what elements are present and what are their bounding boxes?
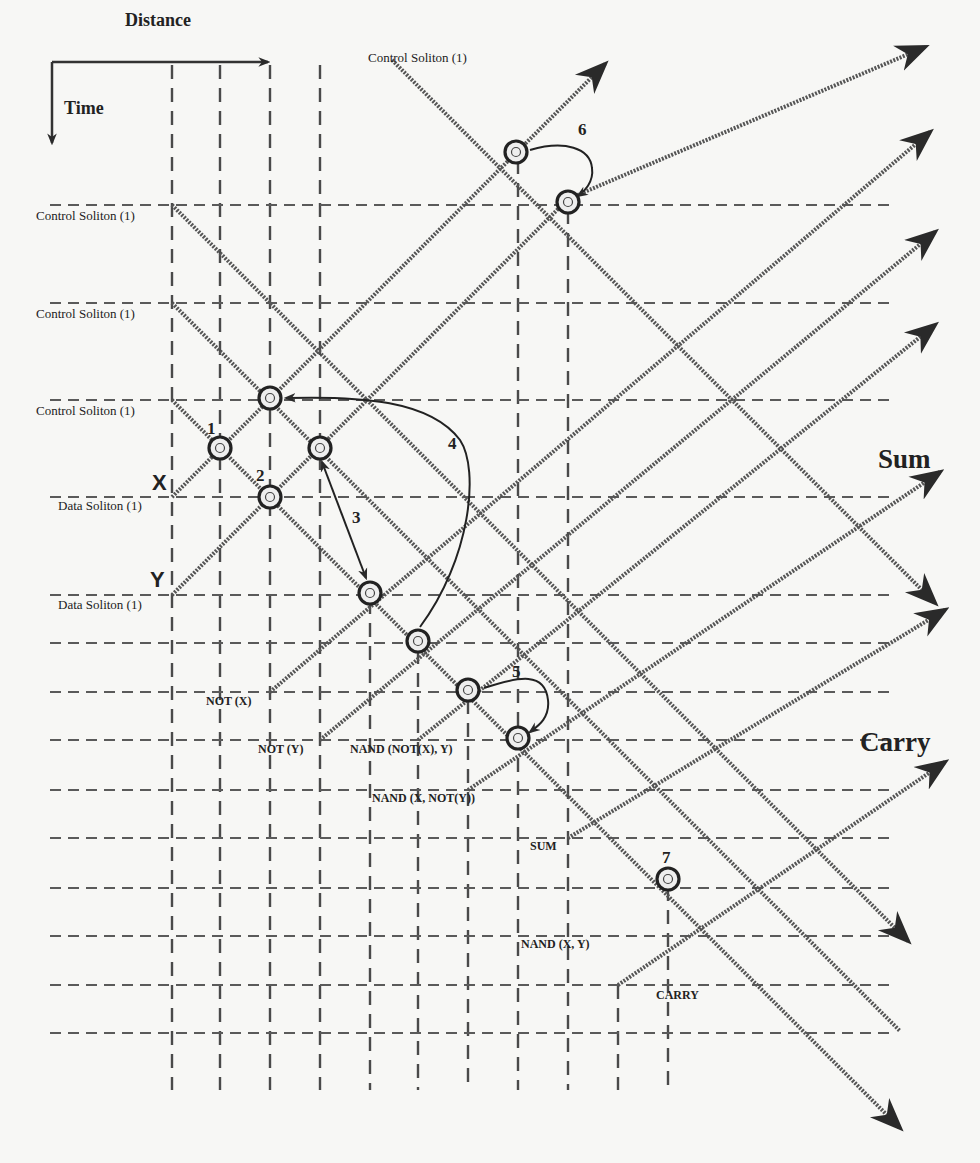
collision-number-4: 4 bbox=[448, 434, 457, 454]
horizontal-grid-lines bbox=[50, 205, 890, 1033]
collision-circle-icon bbox=[209, 437, 231, 459]
soliton-path bbox=[568, 47, 925, 199]
gate-label-nand-x-noty: NAND (X, NOT(Y)) bbox=[372, 791, 475, 806]
collision-circle-icon bbox=[359, 582, 381, 604]
collision-circle-icon bbox=[657, 868, 679, 890]
collision-circle-icon bbox=[557, 191, 579, 213]
collision-number-2: 2 bbox=[256, 466, 265, 486]
input-y-label: Y bbox=[150, 567, 165, 593]
collision-number-3: 3 bbox=[352, 508, 361, 528]
flow-arrow-6 bbox=[530, 146, 592, 196]
collision-points bbox=[209, 141, 679, 890]
soliton-path bbox=[172, 400, 900, 1128]
gate-label-not-y: NOT (Y) bbox=[258, 742, 303, 757]
control-soliton-label-2: Control Soliton (1) bbox=[36, 306, 135, 322]
collision-circle-icon bbox=[507, 727, 529, 749]
soliton-path bbox=[270, 132, 930, 692]
soliton-path bbox=[172, 199, 568, 595]
data-soliton-label-y: Data Soliton (1) bbox=[58, 597, 142, 613]
soliton-path bbox=[320, 232, 935, 740]
distance-label: Distance bbox=[125, 10, 191, 31]
soliton-path bbox=[568, 610, 945, 838]
flow-arrows bbox=[286, 146, 592, 732]
gate-label-nand-notx-y: NAND (NOT(X), Y) bbox=[350, 742, 453, 757]
input-x-label: X bbox=[152, 470, 167, 496]
soliton-adder-diagram bbox=[0, 0, 980, 1163]
output-sum-label: Sum bbox=[878, 444, 931, 475]
soliton-path bbox=[418, 325, 935, 740]
collision-number-5: 5 bbox=[512, 662, 521, 682]
collision-circle-icon bbox=[309, 437, 331, 459]
control-soliton-label-top: Control Soliton (1) bbox=[368, 50, 467, 66]
control-soliton-label-1: Control Soliton (1) bbox=[36, 208, 135, 224]
collision-circle-icon bbox=[407, 630, 429, 652]
output-carry-label: Carry bbox=[860, 727, 930, 758]
soliton-path bbox=[172, 205, 908, 941]
soliton-path bbox=[172, 64, 605, 497]
collision-circle-icon bbox=[259, 387, 281, 409]
collision-number-1: 1 bbox=[207, 419, 216, 439]
collision-circle-icon bbox=[259, 486, 281, 508]
control-soliton-label-3: Control Soliton (1) bbox=[36, 403, 135, 419]
time-label: Time bbox=[64, 98, 104, 119]
gate-label-not-x: NOT (X) bbox=[206, 694, 251, 709]
collision-circle-icon bbox=[505, 141, 527, 163]
collision-number-6: 6 bbox=[578, 120, 587, 140]
gate-label-nand-x-y: NAND (X, Y) bbox=[521, 937, 590, 952]
gate-label-sum: SUM bbox=[530, 839, 557, 854]
collision-circle-icon bbox=[457, 679, 479, 701]
soliton-path bbox=[172, 303, 900, 1031]
data-soliton-label-x: Data Soliton (1) bbox=[58, 498, 142, 514]
collision-number-7: 7 bbox=[662, 848, 671, 868]
gate-label-carry: CARRY bbox=[656, 988, 699, 1003]
